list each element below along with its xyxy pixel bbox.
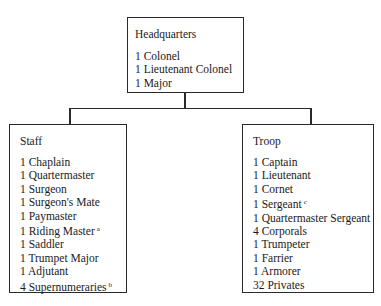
staff-list: 1 Chaplain 1 Quartermaster 1 Surgeon 1 S…	[20, 156, 112, 294]
connector-horizontal	[69, 108, 311, 110]
list-item: 1 Adjutant	[20, 265, 112, 278]
list-item: 1 Surgeon	[20, 183, 112, 196]
list-item: 32 Privates	[253, 279, 370, 292]
connector-staff-down	[69, 108, 71, 125]
list-item: 1 Cornet	[253, 183, 370, 196]
footnote-marker: c	[304, 198, 307, 206]
list-item: 1 Paymaster	[20, 210, 112, 223]
list-item: 1 Farrier	[253, 252, 370, 265]
list-item: 1 Lieutenant	[253, 169, 370, 182]
staff-box: Staff 1 Chaplain 1 Quartermaster 1 Surge…	[9, 124, 127, 293]
list-item: 1 Saddler	[20, 238, 112, 251]
troop-title: Troop	[253, 135, 281, 148]
list-item: 1 Sergeantc	[253, 196, 370, 211]
list-item: 1 Quartermaster	[20, 169, 112, 182]
list-item: 1 Quartermaster Sergeant	[253, 212, 370, 225]
headquarters-box: Headquarters 1 Colonel 1 Lieutenant Colo…	[127, 17, 244, 93]
list-item: 1 Trumpeter	[253, 238, 370, 251]
list-item: 1 Major	[135, 77, 232, 90]
list-item: 1 Armorer	[253, 265, 370, 278]
headquarters-title: Headquarters	[135, 28, 196, 41]
staff-title: Staff	[20, 135, 42, 148]
troop-box: Troop 1 Captain 1 Lieutenant 1 Cornet 1 …	[242, 124, 374, 293]
list-item: 4 Corporals	[253, 225, 370, 238]
troop-list: 1 Captain 1 Lieutenant 1 Cornet 1 Sergea…	[253, 156, 370, 292]
list-item: 1 Lieutenant Colonel	[135, 63, 232, 76]
list-item: 1 Riding Mastera	[20, 223, 112, 238]
list-item: 1 Surgeon's Mate	[20, 196, 112, 209]
list-item: 4 Supernumerariesb	[20, 279, 112, 294]
connector-hq-down	[184, 92, 186, 109]
list-item: 1 Chaplain	[20, 156, 112, 169]
connector-troop-down	[310, 108, 312, 125]
footnote-marker: a	[97, 225, 100, 233]
list-item: 1 Captain	[253, 156, 370, 169]
list-item: 1 Colonel	[135, 50, 232, 63]
headquarters-list: 1 Colonel 1 Lieutenant Colonel 1 Major	[135, 50, 232, 90]
list-item: 1 Trumpet Major	[20, 252, 112, 265]
footnote-marker: b	[109, 281, 113, 289]
